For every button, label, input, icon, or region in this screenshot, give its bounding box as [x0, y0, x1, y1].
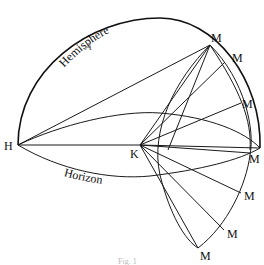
horizon-label: Horizon	[63, 165, 104, 186]
m-label-1: M	[211, 31, 222, 45]
m-label-2: M	[232, 51, 243, 65]
m-label-6: M	[227, 227, 238, 241]
m-label-7: M	[200, 249, 211, 263]
region-a-label: A	[84, 40, 92, 52]
m-label-4: M	[249, 152, 260, 166]
horizon-back-arc	[18, 113, 260, 148]
figure-caption: Fig. 1	[118, 257, 137, 265]
hemisphere-arc	[18, 18, 260, 148]
k-label: K	[130, 147, 139, 161]
hemisphere-diagram: Hemisphere Horizon A H K M M M M M M M F…	[0, 0, 264, 265]
m-label-5: M	[244, 189, 255, 203]
hemisphere-label: Hemisphere	[56, 23, 111, 70]
m-chord	[168, 45, 210, 150]
horizon-front-arc	[18, 145, 260, 177]
m-label-3: M	[242, 97, 253, 111]
h-label: H	[4, 139, 13, 153]
h-m-line	[18, 45, 210, 145]
